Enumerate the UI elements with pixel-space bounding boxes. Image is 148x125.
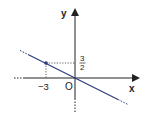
x-axis-label: x [129, 83, 135, 94]
y-tick-numerator: 3 [80, 54, 85, 63]
y-tick-denominator: 2 [80, 63, 85, 72]
coordinate-graph: y x O −3 3 2 [0, 0, 148, 125]
y-tick-fraction: 3 2 [80, 54, 86, 72]
origin-label: O [65, 81, 73, 92]
x-tick-label: −3 [38, 81, 49, 92]
y-axis-label: y [61, 8, 67, 19]
marked-point [44, 61, 48, 65]
